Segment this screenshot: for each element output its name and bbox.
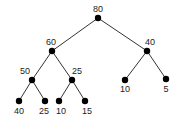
tree-edge (32, 80, 45, 101)
tree-node (122, 77, 128, 83)
node-value-label: 60 (46, 37, 56, 47)
edges (19, 18, 166, 101)
tree-node (69, 77, 75, 83)
tree-edge (52, 51, 72, 80)
tree-node (82, 98, 88, 104)
tree-edge (59, 80, 72, 101)
node-value-label: 15 (82, 106, 92, 116)
node-value-label: 10 (56, 106, 66, 116)
tree-edge (52, 18, 98, 51)
tree-edge (19, 80, 32, 101)
node-value-label: 40 (145, 37, 155, 47)
tree-edge (72, 80, 85, 101)
tree-node (144, 48, 150, 54)
tree-edge (32, 51, 52, 80)
tree-node (56, 98, 62, 104)
tree-edge (147, 51, 166, 79)
node-value-label: 5 (163, 84, 168, 94)
tree-node (95, 15, 101, 21)
node-value-label: 80 (93, 4, 103, 14)
tree-node (42, 98, 48, 104)
tree-node (49, 48, 55, 54)
node-value-label: 25 (39, 106, 49, 116)
tree-edge (125, 51, 147, 80)
node-value-label: 40 (14, 106, 24, 116)
labels: 806040502510540251015 (14, 4, 169, 116)
tree-edge (98, 18, 147, 51)
tree-node (29, 77, 35, 83)
node-value-label: 25 (72, 66, 82, 76)
tree-node (163, 76, 169, 82)
node-value-label: 10 (120, 84, 130, 94)
node-value-label: 50 (20, 66, 30, 76)
tree-diagram: 806040502510540251015 (0, 0, 178, 121)
tree-node (16, 98, 22, 104)
